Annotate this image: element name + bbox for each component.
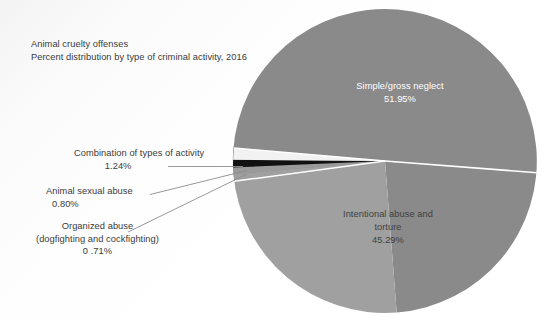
- slice-label-neglect-value: 51.95%: [384, 94, 416, 104]
- callout-combination-of-types: Combination of types of activity 1.24%: [74, 147, 204, 172]
- slice-label-neglect-name: Simple/gross neglect: [356, 81, 443, 91]
- chart-canvas: Animal cruelty offenses Percent distribu…: [0, 0, 554, 320]
- callout-combination-name: Combination of types of activity: [74, 148, 204, 158]
- callout-organized-name-1: Organized abuse: [62, 221, 134, 231]
- callout-combination-value: 1.24%: [32, 160, 204, 173]
- slice-label-simple-gross-neglect: Simple/gross neglect 51.95%: [330, 80, 470, 106]
- leader-line-animal-sexual-abuse: [150, 171, 247, 195]
- slice-label-intentional-name-2: torture: [374, 222, 401, 232]
- callout-sexual-abuse-value: 0.80%: [0, 198, 133, 211]
- slice-label-intentional-abuse: Intentional abuse and torture 45.29%: [318, 208, 458, 246]
- callout-sexual-abuse-name: Animal sexual abuse: [46, 186, 133, 196]
- chart-subtitle: Percent distribution by type of criminal…: [31, 51, 247, 64]
- chart-title-block: Animal cruelty offenses Percent distribu…: [31, 38, 247, 64]
- callout-organized-name-2: (dogfighting and cockfighting): [36, 234, 159, 244]
- callout-animal-sexual-abuse: Animal sexual abuse 0.80%: [46, 185, 133, 210]
- callout-organized-value: 0 .71%: [36, 245, 159, 258]
- callout-organized-abuse: Organized abuse (dogfighting and cockfig…: [36, 220, 159, 258]
- slice-label-intentional-name-1: Intentional abuse and: [343, 209, 433, 219]
- slice-label-intentional-value: 45.29%: [372, 235, 404, 245]
- chart-title: Animal cruelty offenses: [31, 38, 247, 51]
